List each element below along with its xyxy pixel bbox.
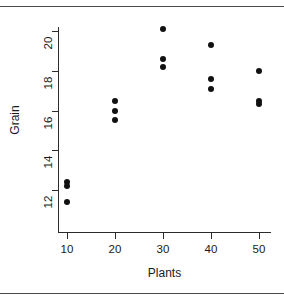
data-point	[112, 108, 118, 114]
x-tick-40	[211, 233, 212, 239]
x-tick-label-10: 10	[52, 243, 82, 255]
x-tick-50	[259, 233, 260, 239]
data-point	[160, 64, 166, 70]
x-axis-title: Plants	[58, 266, 271, 280]
y-axis-line	[58, 27, 59, 232]
data-point	[160, 56, 166, 62]
x-tick-label-40: 40	[196, 243, 226, 255]
x-tick-10	[67, 233, 68, 239]
data-point	[256, 101, 262, 107]
x-tick-label-30: 30	[148, 243, 178, 255]
data-point	[112, 117, 118, 123]
data-point	[64, 199, 70, 205]
data-point	[208, 42, 214, 48]
x-tick-20	[115, 233, 116, 239]
x-axis-line	[58, 232, 271, 233]
data-point	[112, 98, 118, 104]
y-tick-label-20: 20	[42, 30, 54, 56]
y-tick-label-14: 14	[42, 149, 54, 175]
y-tick-label-12: 12	[42, 189, 54, 215]
data-point	[256, 68, 262, 74]
plot-area: 1214161820 1020304050 Plants Grain	[0, 0, 284, 303]
x-tick-label-20: 20	[100, 243, 130, 255]
x-tick-label-50: 50	[244, 243, 274, 255]
y-axis-title: Grain	[8, 70, 22, 170]
data-point	[160, 26, 166, 32]
data-point	[208, 76, 214, 82]
x-tick-30	[163, 233, 164, 239]
scatter-plot-figure: 1214161820 1020304050 Plants Grain	[0, 0, 284, 303]
data-point	[64, 183, 70, 189]
data-point	[208, 86, 214, 92]
y-tick-label-16: 16	[42, 110, 54, 136]
y-tick-label-18: 18	[42, 70, 54, 96]
